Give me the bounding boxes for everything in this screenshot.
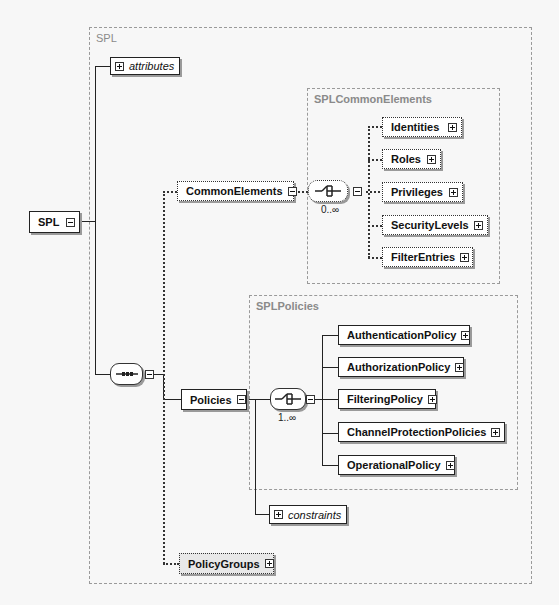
policy-groups-label: PolicyGroups [188,558,260,570]
filter-entries-node[interactable]: FilterEntries [382,247,473,267]
expand-icon[interactable] [461,331,470,340]
expand-icon[interactable] [115,62,124,71]
filtering-policy-label: FilteringPolicy [347,393,423,405]
collapse-icon[interactable] [306,395,315,404]
collapse-icon[interactable] [237,395,246,404]
connector [322,465,338,466]
optional-connector [368,126,370,258]
connector [255,514,269,515]
spl-common-elements-frame-title: SPLCommonElements [314,93,432,105]
expand-icon[interactable] [474,221,483,230]
channel-protection-policies-label: ChannelProtectionPolicies [347,426,486,438]
roles-label: Roles [391,153,422,165]
collapse-icon[interactable] [288,187,297,196]
spl-frame-title: SPL [96,32,117,44]
connector [163,399,181,400]
privileges-label: Privileges [391,186,444,198]
connector [322,399,338,400]
filter-entries-label: FilterEntries [391,251,455,263]
optional-connector [163,191,177,193]
spl-root-label: SPL [38,216,61,228]
collapse-icon[interactable] [353,187,362,196]
common-elements-label: CommonElements [186,185,283,197]
filtering-policy-node[interactable]: FilteringPolicy [338,389,436,409]
connector [95,66,110,67]
collapse-icon[interactable] [66,218,75,227]
connector [322,433,338,434]
expand-icon[interactable] [446,461,455,470]
choice-compositor [270,388,306,410]
expand-icon[interactable] [265,559,274,568]
authorization-policy-node[interactable]: AuthorizationPolicy [338,357,464,377]
policies-label: Policies [190,394,232,406]
connector [80,221,96,222]
expand-icon[interactable] [448,123,457,132]
roles-node[interactable]: Roles [382,149,441,169]
optional-connector [368,257,382,259]
occurrence-label: 0..∞ [321,204,339,215]
security-levels-node[interactable]: SecurityLevels [382,215,488,235]
optional-connector [368,225,382,227]
optional-connector [368,126,382,128]
optional-connector [163,563,179,565]
operational-policy-label: OperationalPolicy [347,459,441,471]
attributes-node[interactable]: attributes [110,57,180,75]
identities-label: Identities [391,121,443,133]
connector [322,335,323,466]
identities-node[interactable]: Identities [382,117,462,137]
expand-icon[interactable] [491,428,500,437]
expand-icon[interactable] [274,510,283,519]
expand-icon[interactable] [455,363,464,372]
occurrence-label: 1..∞ [278,412,296,423]
choice-icon [310,182,346,200]
attributes-label: attributes [129,60,175,72]
connector [322,335,338,336]
policy-groups-node[interactable]: PolicyGroups [179,553,274,574]
authentication-policy-node[interactable]: AuthenticationPolicy [338,325,470,345]
constraints-label: constraints [288,509,342,521]
expand-icon[interactable] [428,395,437,404]
spl-root-element[interactable]: SPL [29,211,80,233]
operational-policy-node[interactable]: OperationalPolicy [338,455,455,475]
expand-icon[interactable] [449,188,458,197]
security-levels-label: SecurityLevels [391,219,469,231]
authorization-policy-label: AuthorizationPolicy [347,361,450,373]
choice-icon [272,390,304,408]
common-elements-node[interactable]: CommonElements [177,181,294,201]
privileges-node[interactable]: Privileges [382,182,463,202]
sequence-icon [112,365,142,383]
connector [322,367,338,368]
connector [247,399,272,400]
sequence-compositor [110,363,143,385]
connector [95,66,96,375]
connector [255,399,256,515]
authentication-policy-label: AuthenticationPolicy [347,329,456,341]
expand-icon[interactable] [427,155,436,164]
optional-connector [163,191,165,564]
spl-policies-frame-title: SPLPolicies [256,300,319,312]
constraints-node[interactable]: constraints [269,505,347,524]
expand-icon[interactable] [460,253,469,262]
choice-compositor [308,180,348,202]
connector [95,374,110,375]
policies-node[interactable]: Policies [181,389,247,410]
optional-connector [368,159,382,161]
collapse-icon[interactable] [145,370,154,379]
channel-protection-policies-node[interactable]: ChannelProtectionPolicies [338,422,505,442]
optional-connector [298,191,308,193]
